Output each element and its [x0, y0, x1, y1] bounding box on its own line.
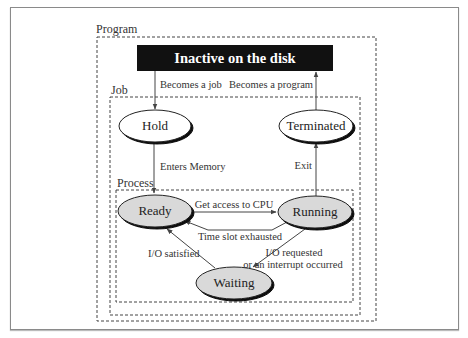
state-ready-label: Ready	[138, 203, 172, 218]
disk-box-label: Inactive on the disk	[174, 50, 296, 66]
label-io-satisfied: I/O satisfied	[148, 248, 200, 259]
state-waiting: Waiting	[196, 267, 272, 299]
state-running-label: Running	[293, 204, 338, 219]
process-label: Process	[117, 176, 154, 190]
state-waiting-label: Waiting	[214, 275, 255, 290]
inactive-disk-box: Inactive on the disk	[137, 45, 333, 71]
state-running: Running	[278, 196, 352, 228]
state-terminated-label: Terminated	[286, 118, 346, 133]
label-enters-memory: Enters Memory	[160, 161, 226, 172]
label-io-requested-1: I/O requested	[266, 247, 324, 258]
job-label: Job	[111, 83, 128, 97]
state-hold: Hold	[119, 110, 191, 142]
process-state-diagram: Program Job Process Inactive on the disk…	[0, 0, 468, 338]
label-time-slot: Time slot exhausted	[198, 231, 283, 242]
label-becomes-job: Becomes a job	[160, 79, 222, 90]
program-label: Program	[96, 22, 138, 36]
label-io-requested-2: or an interrupt occurred	[243, 259, 343, 270]
state-hold-label: Hold	[142, 118, 169, 133]
arrow-time-slot	[185, 221, 287, 230]
label-becomes-program: Becomes a program	[229, 79, 313, 90]
state-ready: Ready	[118, 195, 192, 227]
state-terminated: Terminated	[279, 110, 353, 142]
label-get-cpu: Get access to CPU	[195, 199, 274, 210]
label-exit: Exit	[295, 160, 313, 171]
